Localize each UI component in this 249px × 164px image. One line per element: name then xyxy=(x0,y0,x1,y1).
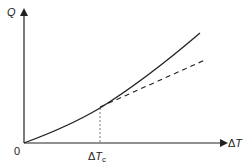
y-axis-label: Q xyxy=(7,6,16,18)
origin-label: 0 xyxy=(14,145,20,157)
x-axis-label: ΔT xyxy=(228,137,243,149)
diagram-canvas: Q 0 ΔT ΔTc xyxy=(0,0,249,164)
critical-marker-label: ΔTc xyxy=(88,150,106,164)
main-curve xyxy=(24,33,200,143)
tangent-line xyxy=(100,60,205,107)
